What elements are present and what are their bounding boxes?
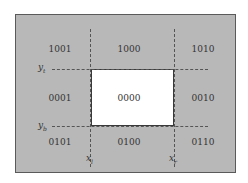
- region-code-middle-left: 0001: [49, 93, 72, 103]
- region-code-top-right: 1010: [192, 44, 215, 54]
- x-left-label: xl: [86, 153, 93, 165]
- x-right-label: xr: [169, 153, 177, 165]
- y-top-boundary-line: [52, 69, 208, 70]
- y-bottom-label: yb: [38, 120, 47, 132]
- region-code-top-left: 1001: [49, 44, 72, 54]
- y-top-label: yt: [38, 62, 46, 74]
- x-left-boundary-line: [90, 29, 91, 167]
- region-code-middle-right: 0010: [192, 93, 215, 103]
- region-code-bottom-left: 0101: [49, 137, 72, 147]
- region-code-top-center: 1000: [118, 44, 141, 54]
- region-code-center: 0000: [118, 93, 141, 103]
- x-right-boundary-line: [174, 29, 175, 167]
- region-code-bottom-center: 0100: [118, 137, 141, 147]
- y-bottom-boundary-line: [52, 126, 208, 127]
- region-code-bottom-right: 0110: [192, 137, 215, 147]
